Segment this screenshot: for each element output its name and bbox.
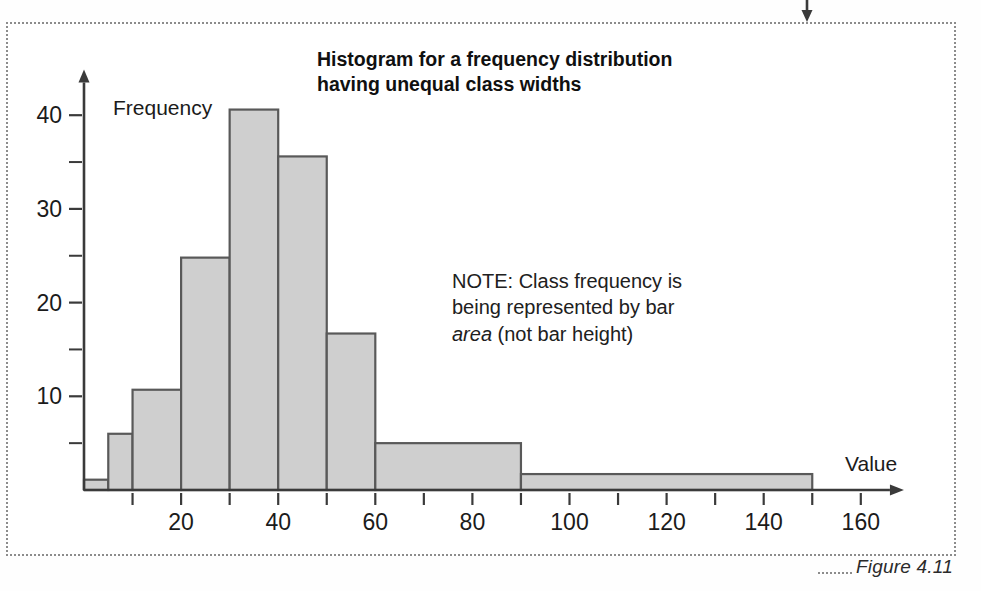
histogram-bar — [521, 474, 812, 490]
y-tick-label: 20 — [12, 289, 62, 316]
figure-caption: Figure 4.11 — [856, 556, 953, 578]
x-tick-label: 80 — [460, 509, 486, 536]
histogram-bar — [327, 334, 376, 490]
histogram-bar — [230, 110, 279, 490]
caption-leader-line — [818, 572, 852, 574]
y-axis-arrow — [79, 69, 90, 82]
x-tick-label: 20 — [168, 509, 194, 536]
histogram-bar — [84, 480, 108, 490]
chart-note-line-1: NOTE: Class frequency is — [452, 268, 752, 294]
x-tick-label: 60 — [363, 509, 389, 536]
histogram-bar — [375, 443, 521, 490]
x-tick-label: 40 — [265, 509, 291, 536]
chart-note-italic-word: area — [452, 323, 492, 345]
histogram-bar — [133, 390, 182, 490]
chart-note-line-2: being represented by bar — [452, 294, 752, 320]
x-tick-label: 140 — [745, 509, 783, 536]
chart-title-line-2: having unequal class widths — [317, 72, 737, 97]
x-axis-arrow — [890, 485, 904, 496]
figure-page: Histogram for a frequency distribution h… — [0, 0, 981, 591]
histogram-bar — [181, 258, 230, 490]
histogram-bar — [108, 434, 132, 490]
chart-note: NOTE: Class frequency is being represent… — [452, 268, 752, 347]
y-tick-label: 40 — [12, 102, 62, 129]
x-tick-label: 120 — [647, 509, 685, 536]
chart-note-suffix: (not bar height) — [492, 323, 633, 345]
x-tick-label: 100 — [550, 509, 588, 536]
chart-title: Histogram for a frequency distribution h… — [317, 47, 737, 97]
chart-title-line-1: Histogram for a frequency distribution — [317, 47, 737, 72]
y-tick-label: 10 — [12, 383, 62, 410]
x-tick-label: 160 — [842, 509, 880, 536]
chart-note-line-3: area (not bar height) — [452, 321, 752, 347]
y-tick-label: 30 — [12, 195, 62, 222]
y-axis-label: Frequency — [113, 96, 212, 120]
x-axis-label: Value — [845, 452, 897, 476]
histogram-bar — [278, 156, 327, 490]
